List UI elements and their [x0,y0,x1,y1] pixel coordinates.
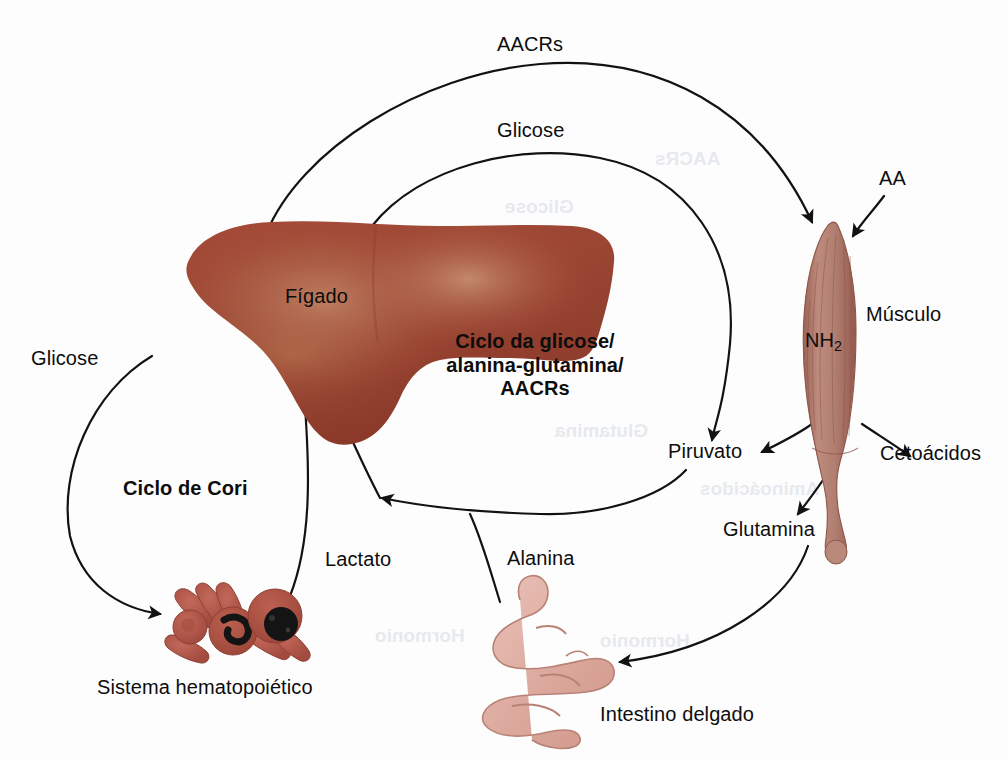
flow-lactato-to-liver [290,392,308,596]
label-musculo: Músculo [866,303,941,327]
center-title-line-3: AACRs [500,377,569,399]
muscle-organ [803,222,858,564]
flow-piruvato-to-alanina-junction [382,470,686,514]
nh2-text: NH [805,329,834,351]
label-lactato: Lactato [325,548,391,572]
intestine-organ [483,576,615,749]
label-glicose-top: Glicose [497,119,564,143]
label-piruvato: Piruvato [668,440,742,464]
label-sistema-hematopoietico: Sistema hematopoiético [97,676,313,700]
center-title-line-2: alanina-glutamina/ [446,354,623,376]
flow-aa-to-muscle [853,196,884,236]
hematopoietic-cells [165,583,310,663]
label-intestino-delgado: Intestino delgado [600,703,754,727]
label-aa: AA [879,167,906,191]
center-title: Ciclo da glicose/ alanina-glutamina/ AAC… [440,330,630,401]
flow-intestine-to-alanina-branch [470,514,500,602]
label-glicose-left: Glicose [31,347,98,371]
flow-aacrs-liver-to-muscle [266,63,812,234]
flow-muscle-to-piruvato [762,424,812,452]
label-nh2: NH2 [805,329,842,355]
label-cetoacidos: Cetoácidos [880,442,981,466]
label-alanina: Alanina [507,547,574,571]
label-figado: Fígado [285,285,348,309]
label-glutamina: Glutamina [723,518,815,542]
flow-glutamina-to-intestine [620,546,808,662]
nh2-subscript: 2 [834,338,842,354]
label-aacrs-top: AACRs [497,33,563,57]
figure-canvas: Glicose AACRs Glutamina Aminoácidos Horm… [0,0,1007,761]
label-ciclo-de-cori: Ciclo de Cori [123,477,248,501]
center-title-line-1: Ciclo da glicose/ [455,330,615,352]
